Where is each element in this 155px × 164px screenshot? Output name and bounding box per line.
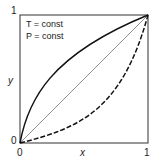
annotation-temperature: T = const	[26, 20, 63, 29]
chart-plot	[0, 0, 155, 164]
x-tick-1: 1	[144, 148, 150, 158]
x-axis-label: x	[80, 148, 85, 158]
x-tick-0: 0	[17, 148, 23, 158]
y-tick-1: 1	[11, 6, 17, 16]
y-tick-0: 0	[11, 136, 17, 146]
y-axis-label: y	[8, 76, 13, 86]
annotation-pressure: P = const	[26, 32, 64, 41]
